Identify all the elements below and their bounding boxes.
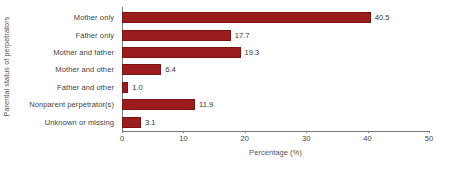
x-tick-mark	[429, 131, 430, 133]
bar	[122, 64, 161, 75]
bar-series: 40.5 17.7 19.3 6.4 1.0 11.9	[122, 9, 429, 131]
bar-row: 40.5	[122, 9, 429, 26]
bar-row: 19.3	[122, 44, 429, 61]
x-tick-label: 20	[241, 134, 249, 143]
x-tick-label: 10	[179, 134, 187, 143]
x-tick-label: 30	[302, 134, 310, 143]
x-tick-mark	[306, 131, 307, 133]
bar-row: 11.9	[122, 96, 429, 113]
bar	[122, 99, 195, 110]
bar-value-label: 17.7	[235, 31, 250, 40]
category-label: Mother and father	[14, 44, 118, 61]
bar	[122, 12, 371, 23]
category-label: Father only	[14, 26, 118, 43]
bar-value-label: 3.1	[145, 118, 156, 127]
bar-value-label: 11.9	[199, 100, 213, 109]
category-label: Unknown or missing	[14, 114, 118, 131]
bar	[122, 117, 141, 128]
y-axis-title-text: Parental status of perpetrators	[3, 16, 12, 116]
x-tick-label: 40	[363, 134, 371, 143]
plot-area: 40.5 17.7 19.3 6.4 1.0 11.9	[122, 9, 429, 131]
bar-value-label: 40.5	[375, 13, 390, 22]
x-tick-mark	[122, 131, 123, 133]
bar	[122, 30, 231, 41]
bar	[122, 47, 241, 58]
bar-value-label: 1.0	[132, 83, 143, 92]
category-label: Mother only	[14, 9, 118, 26]
x-tick-label: 50	[425, 134, 433, 143]
x-axis-ticks: 01020304050	[122, 131, 429, 145]
category-axis-labels: Mother only Father only Mother and fathe…	[14, 9, 118, 131]
category-label: Nonparent perpetrator(s)	[14, 96, 118, 113]
x-tick-mark	[368, 131, 369, 133]
x-axis-title: Percentage (%)	[122, 148, 429, 157]
bar-chart: Parental status of perpetrators Mother o…	[0, 0, 456, 172]
bar-row: 17.7	[122, 26, 429, 43]
bar-value-label: 6.4	[165, 65, 176, 74]
category-label: Mother and other	[14, 61, 118, 78]
bar-value-label: 19.3	[245, 48, 260, 57]
x-tick-mark	[183, 131, 184, 133]
x-tick-mark	[245, 131, 246, 133]
bar-row: 3.1	[122, 114, 429, 131]
bar-row: 6.4	[122, 61, 429, 78]
category-label: Father and other	[14, 79, 118, 96]
y-axis-title: Parental status of perpetrators	[0, 0, 14, 132]
bar	[122, 82, 128, 93]
bar-row: 1.0	[122, 79, 429, 96]
x-tick-label: 0	[120, 134, 124, 143]
